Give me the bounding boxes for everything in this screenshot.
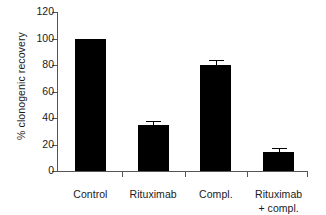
x-axis-label-line: Compl.	[185, 188, 248, 202]
x-axis-end-tick	[307, 172, 308, 177]
x-axis-line	[57, 171, 308, 172]
x-axis-label-1: Rituximab	[122, 188, 185, 202]
x-axis-label-0: Control	[59, 188, 122, 202]
y-tick-label: 0	[48, 164, 54, 177]
bar-2	[200, 65, 231, 171]
bar-0	[75, 39, 106, 172]
x-axis-label-line: Rituximab	[247, 188, 310, 202]
y-axis-line	[57, 12, 58, 172]
bar-1	[138, 125, 169, 171]
x-tick-separator-3	[247, 172, 248, 177]
x-axis-label-line: + compl.	[247, 202, 310, 215]
error-bar-cap-1	[146, 121, 161, 122]
x-axis-label-2: Compl.	[185, 188, 248, 202]
x-axis-label-3: Rituximab+ compl.	[247, 188, 310, 214]
y-tick-label: 40	[42, 111, 54, 124]
y-tick-label: 20	[42, 138, 54, 151]
x-tick-separator-2	[185, 172, 186, 177]
x-axis-label-line: Control	[59, 188, 122, 202]
y-tick-label: 120	[36, 5, 54, 18]
error-bar-cap-3	[272, 148, 287, 149]
y-axis-label: % clonogenic recovery	[14, 0, 28, 172]
y-tick-label: 80	[42, 58, 54, 71]
error-bar-cap-2	[209, 60, 224, 61]
x-axis-label-line: Rituximab	[122, 188, 185, 202]
bar-chart-figure: % clonogenic recovery 020406080100120 Co…	[0, 0, 326, 214]
bar-3	[263, 152, 294, 171]
plot-area: 020406080100120 ControlRituximabCompl.Ri…	[57, 12, 308, 172]
y-tick-label: 100	[36, 32, 54, 45]
y-tick-label: 60	[42, 85, 54, 98]
x-tick-separator-1	[122, 172, 123, 177]
